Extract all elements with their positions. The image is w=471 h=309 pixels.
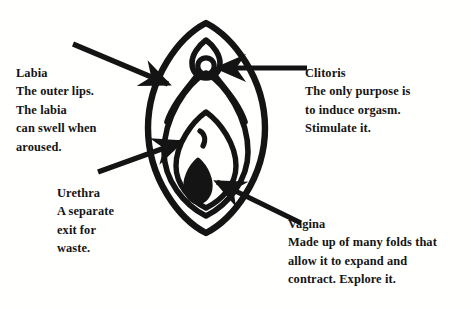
label-clitoris-line-1: The only purpose is [305, 82, 411, 100]
clitoral-glans [198, 58, 214, 74]
urethral-opening [200, 131, 205, 146]
label-urethra-line-1: A separate [57, 202, 114, 220]
anatomy-outlines [148, 23, 265, 233]
label-vagina: Vagina Made up of many folds that allow … [288, 215, 437, 289]
vaginal-opening [186, 160, 211, 202]
label-labia-line-2: The labia [16, 101, 97, 119]
label-labia-line-3: can swell when [16, 119, 97, 137]
label-vagina-line-1: Made up of many folds that [288, 233, 437, 251]
labial-limb-right [216, 77, 245, 122]
label-clitoris-title: Clitoris [305, 64, 411, 82]
label-urethra-line-2: exit for [57, 221, 114, 239]
label-labia-line-1: The outer lips. [16, 82, 97, 100]
label-urethra-line-3: waste. [57, 239, 114, 257]
label-urethra-title: Urethra [57, 184, 114, 202]
label-vagina-title: Vagina [288, 215, 437, 233]
label-clitoris-line-2: to induce orgasm. [305, 101, 411, 119]
label-clitoris-line-3: Stimulate it. [305, 119, 411, 137]
label-labia-title: Labia [16, 64, 97, 82]
labial-limb-left [167, 77, 196, 122]
label-vagina-line-2: allow it to expand and [288, 252, 437, 270]
label-urethra: Urethra A separate exit for waste. [57, 184, 114, 258]
label-vagina-line-3: contract. Explore it. [288, 270, 437, 288]
label-labia: Labia The outer lips. The labia can swel… [16, 64, 97, 156]
label-clitoris: Clitoris The only purpose is to induce o… [305, 64, 411, 138]
label-labia-line-4: aroused. [16, 138, 97, 156]
diagram-page: Labia The outer lips. The labia can swel… [0, 0, 471, 309]
